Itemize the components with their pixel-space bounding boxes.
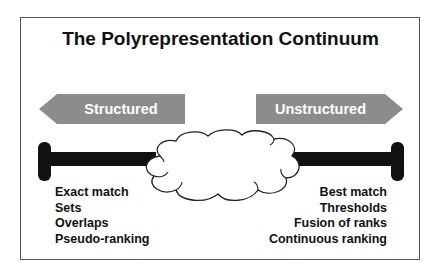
structured-item: Pseudo-ranking bbox=[55, 232, 149, 248]
structured-arrow-label: Structured bbox=[84, 101, 157, 117]
unstructured-arrow: Unstructured bbox=[256, 94, 403, 124]
structured-items-list: Exact match Sets Overlaps Pseudo-ranking bbox=[55, 185, 149, 247]
structured-arrow: Structured bbox=[39, 94, 185, 124]
continuum-bar-right bbox=[290, 152, 396, 166]
structured-item: Overlaps bbox=[55, 216, 149, 232]
unstructured-item: Best match bbox=[269, 185, 387, 201]
unstructured-item: Fusion of ranks bbox=[269, 216, 387, 232]
diagram-title: The Polyrepresentation Continuum bbox=[20, 28, 421, 50]
unstructured-arrow-label: Unstructured bbox=[275, 101, 366, 117]
structured-item: Exact match bbox=[55, 185, 149, 201]
unstructured-item: Continuous ranking bbox=[269, 232, 387, 248]
continuum-right-endcap bbox=[391, 142, 404, 181]
unstructured-item: Thresholds bbox=[269, 201, 387, 217]
structured-item: Sets bbox=[55, 201, 149, 217]
unstructured-items-list: Best match Thresholds Fusion of ranks Co… bbox=[269, 185, 387, 247]
